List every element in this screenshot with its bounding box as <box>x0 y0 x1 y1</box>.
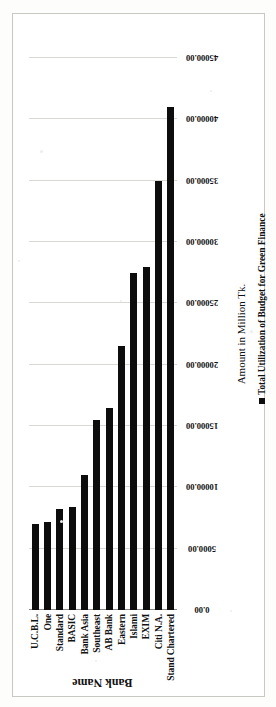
category-tick-label: Citi N.A. <box>154 611 164 696</box>
chart-frame: U.C.B.L.OneStandardBASICBank AsiaSouthea… <box>12 13 265 697</box>
value-tick-label: 0.00 <box>180 605 224 615</box>
rotated-chart-canvas: U.C.B.L.OneStandardBASICBank AsiaSouthea… <box>0 0 276 707</box>
gridline <box>29 118 177 119</box>
plot-area <box>29 58 177 610</box>
bar <box>130 273 137 610</box>
bar <box>81 475 88 610</box>
chart-legend: Total Utilization of Budget for Green Fi… <box>257 213 267 404</box>
bar <box>118 346 125 610</box>
category-tick-label: U.C.B.L. <box>30 611 40 696</box>
legend-label: Total Utilization of Budget for Green Fi… <box>257 213 267 395</box>
bar <box>93 420 100 610</box>
value-tick-label: 10000.00 <box>180 482 224 492</box>
category-tick-label: EXIM <box>141 611 151 696</box>
bar <box>44 522 51 610</box>
category-tick-label: Stand Chartered <box>166 611 176 696</box>
value-tick-label: 30000.00 <box>180 237 224 247</box>
chart-page: U.C.B.L.OneStandardBASICBank AsiaSouthea… <box>0 0 276 707</box>
bar <box>32 524 39 610</box>
value-tick-label: 45000.00 <box>180 53 224 63</box>
value-axis-title: Amount in Million Tk. <box>235 274 247 394</box>
gridline <box>29 57 177 58</box>
value-tick-label: 20000.00 <box>180 360 224 370</box>
category-tick-label: One <box>43 611 53 696</box>
value-tick-label: 40000.00 <box>180 114 224 124</box>
category-tick-label: Standard <box>55 611 65 696</box>
bar <box>143 267 150 610</box>
bar <box>155 181 162 610</box>
value-tick-label: 5000.00 <box>180 544 224 554</box>
bar <box>167 107 174 610</box>
value-tick-label: 35000.00 <box>180 176 224 186</box>
legend-swatch-icon <box>259 398 265 404</box>
bar <box>106 408 113 610</box>
value-tick-label: 15000.00 <box>180 421 224 431</box>
value-tick-label: 25000.00 <box>180 298 224 308</box>
bar <box>69 507 76 610</box>
bar <box>56 509 63 610</box>
category-axis-title: Bank Name <box>73 675 133 690</box>
